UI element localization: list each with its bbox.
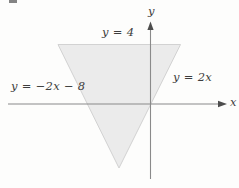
- shaded-triangle-region: [58, 45, 181, 169]
- y-axis-arrow-icon: [147, 22, 153, 31]
- line-label-y-equals-minus-2x-minus-8: y = −2x − 8: [11, 80, 85, 93]
- y-axis-label: y: [148, 5, 155, 18]
- x-axis-arrow-icon: [218, 101, 227, 107]
- inverted-triangle-region-figure: y = 4 y = 2x y = −2x − 8 y x: [0, 0, 239, 188]
- line-label-y-equals-4: y = 4: [102, 26, 134, 39]
- x-axis-label: x: [230, 96, 237, 109]
- line-label-y-equals-2x: y = 2x: [173, 71, 212, 84]
